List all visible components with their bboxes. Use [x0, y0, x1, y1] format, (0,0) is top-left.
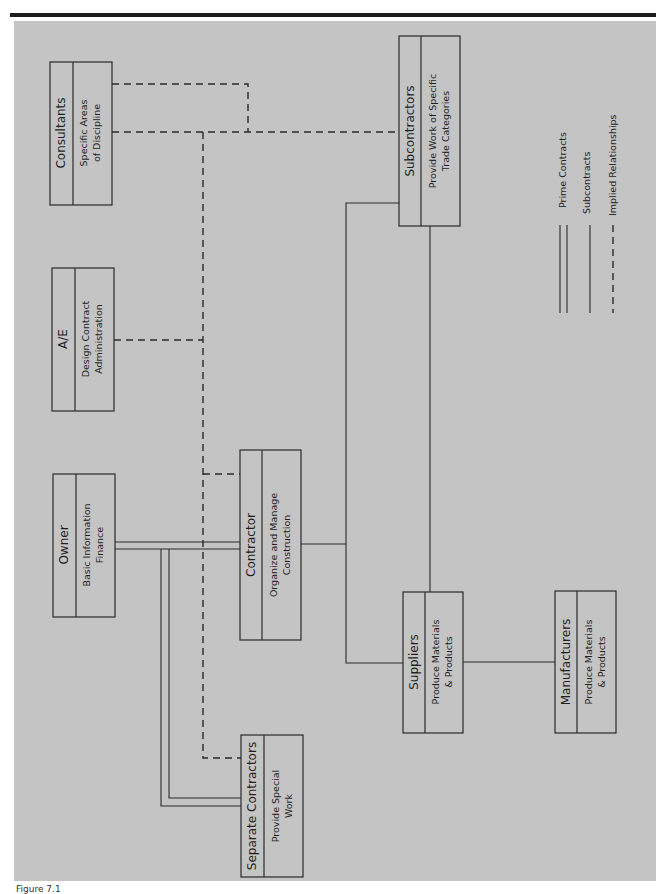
node-title: Separate Contractors — [245, 742, 259, 870]
prime-contract-lines — [115, 542, 241, 806]
node-desc-line2: Construction — [281, 515, 292, 576]
node-separate-contractors[interactable]: Separate Contractors Provide Special Wor… — [241, 735, 303, 877]
node-desc-line2: & Products — [443, 636, 454, 687]
node-title: A/E — [56, 329, 70, 349]
node-ae[interactable]: A/E Design Contract Administration — [52, 268, 114, 411]
legend-implied-relationships: Implied Relationships — [607, 114, 618, 313]
node-suppliers[interactable]: Suppliers Produce Materials & Products — [403, 592, 463, 733]
node-desc-line2: Administration — [93, 304, 104, 374]
node-desc-line1: Provide Work of Specific — [427, 74, 438, 188]
node-title: Subcontractors — [403, 85, 417, 176]
node-desc-line2: Work — [283, 793, 294, 818]
node-desc-line2: Finance — [94, 527, 105, 563]
org-diagram: Consultants Specific Areas of Discipline… — [0, 0, 666, 894]
node-desc-line2: & Products — [596, 636, 607, 687]
node-title: Consultants — [54, 97, 68, 168]
legend-subcontracts: Subcontracts — [581, 151, 592, 313]
figure-caption: Figure 7.1 — [16, 884, 61, 894]
node-desc-line1: Organize and Manage — [268, 493, 279, 597]
node-desc-line1: Basic Information — [81, 503, 92, 586]
node-desc-line1: Specific Areas — [78, 100, 89, 167]
svg-text:Prime Contracts: Prime Contracts — [557, 132, 568, 208]
node-desc-line1: Produce Materials — [583, 620, 594, 705]
node-title: Contractor — [244, 513, 258, 577]
node-desc-line1: Produce Materials — [430, 620, 441, 705]
node-title: Owner — [57, 525, 71, 564]
node-title: Suppliers — [407, 634, 421, 690]
svg-text:Implied Relationships: Implied Relationships — [607, 114, 618, 216]
node-subcontractors[interactable]: Subcontractors Provide Work of Specific … — [399, 36, 460, 226]
node-desc-line2: of Discipline — [91, 104, 102, 162]
svg-text:Subcontracts: Subcontracts — [581, 151, 592, 214]
node-contractor[interactable]: Contractor Organize and Manage Construct… — [240, 450, 301, 640]
node-manufacturers[interactable]: Manufacturers Produce Materials & Produc… — [555, 591, 616, 733]
implied-relationships — [112, 84, 399, 758]
node-owner[interactable]: Owner Basic Information Finance — [53, 474, 115, 617]
node-consultants[interactable]: Consultants Specific Areas of Discipline — [50, 62, 112, 205]
node-title: Manufacturers — [559, 619, 573, 706]
node-desc-line2: Trade Categories — [440, 91, 451, 172]
legend: Prime Contracts Subcontracts Implied Rel… — [557, 114, 618, 313]
node-desc-line1: Design Contract — [80, 300, 91, 377]
legend-prime-contracts: Prime Contracts — [557, 132, 568, 313]
node-desc-line1: Provide Special — [270, 770, 281, 842]
